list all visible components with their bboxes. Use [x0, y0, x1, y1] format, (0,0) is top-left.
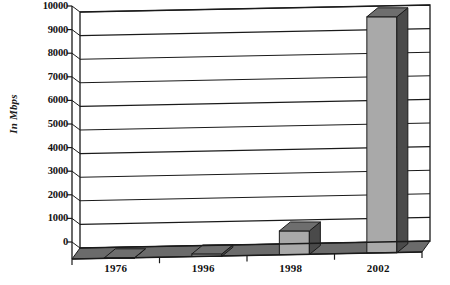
x-tick-label-1996: 1996 — [158, 262, 248, 274]
bar-front — [367, 17, 397, 253]
bar-side — [397, 8, 408, 253]
plot-area — [0, 0, 450, 285]
x-tick-label-1998: 1998 — [246, 262, 336, 274]
x-tick-label-1976: 1976 — [71, 262, 161, 274]
bar-front — [279, 231, 309, 255]
x-tick-label-2002: 2002 — [333, 262, 423, 274]
bar-chart: In Mbps 10000900080007000600050004000300… — [0, 0, 450, 285]
